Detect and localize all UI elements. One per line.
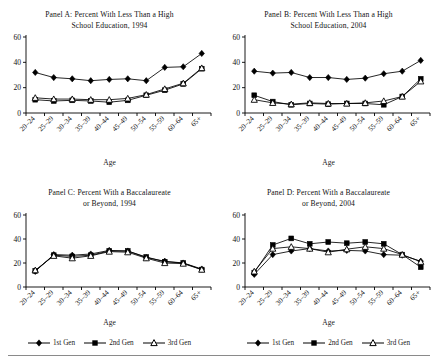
panel-a-title-line1: Panel A: Percent With Less Than a High (12, 10, 207, 21)
svg-text:0: 0 (236, 283, 240, 292)
panel-b-plot-wrap: 020406020–2425–2930–3435–3940–4445–4950–… (219, 31, 438, 156)
svg-text:35–39: 35–39 (293, 288, 312, 307)
panel-b-x-axis-label: Age (219, 158, 438, 167)
panel-c-x-axis-label: Age (0, 318, 219, 327)
panel-b-title-line2: School Education, 2004 (231, 21, 426, 32)
svg-text:55–59: 55–59 (367, 114, 386, 133)
legend-label-3rd-gen: 3rd Gen (386, 339, 410, 347)
legend-label-1st-gen: 1st Gen (52, 339, 75, 347)
panel-d: Panel D: Percent With a Baccalaureate or… (219, 178, 438, 333)
legend-item-3rd-gen: 3rd Gen (143, 338, 191, 348)
panel-grid: Panel A: Percent With Less Than a High S… (0, 0, 438, 333)
diamond-filled-marker-icon (28, 338, 50, 348)
svg-text:40–44: 40–44 (311, 114, 330, 133)
svg-text:60: 60 (13, 211, 21, 220)
svg-text:50–54: 50–54 (129, 288, 148, 307)
panel-a: Panel A: Percent With Less Than a High S… (0, 0, 219, 178)
svg-text:30–34: 30–34 (55, 288, 74, 307)
square-filled-marker-icon (84, 338, 106, 348)
svg-text:60: 60 (13, 33, 21, 42)
svg-text:20–24: 20–24 (237, 288, 256, 307)
panel-b: Panel B: Percent With Less Than a High S… (219, 0, 438, 178)
panel-a-title-line2: School Education, 1994 (12, 21, 207, 32)
legend-left: 1st Gen 2nd Gen 3rd Gen (0, 334, 219, 352)
panel-c-title: Panel C: Percent With a Baccalaureate or… (0, 178, 219, 209)
panel-b-title: Panel B: Percent With Less Than a High S… (219, 0, 438, 31)
legend-label-2nd-gen: 2nd Gen (108, 339, 134, 347)
svg-text:20: 20 (232, 83, 240, 92)
svg-text:0: 0 (236, 109, 240, 118)
svg-text:50–54: 50–54 (348, 114, 367, 133)
panel-a-chart: 020406020–2425–2930–3435–3940–4445–4950–… (0, 31, 219, 156)
svg-text:65+: 65+ (409, 289, 423, 303)
svg-text:20–24: 20–24 (18, 114, 37, 133)
legend-label-3rd-gen: 3rd Gen (167, 339, 191, 347)
panel-a-title: Panel A: Percent With Less Than a High S… (0, 0, 219, 31)
svg-text:60–64: 60–64 (385, 288, 404, 307)
svg-text:30–34: 30–34 (55, 114, 74, 133)
legend-item-3rd-gen: 3rd Gen (362, 338, 410, 348)
svg-text:40: 40 (13, 235, 21, 244)
svg-text:45–49: 45–49 (330, 288, 349, 307)
panel-d-title-line2: or Beyond, 2004 (231, 199, 426, 210)
diamond-filled-marker-icon (247, 338, 269, 348)
svg-text:40: 40 (13, 58, 21, 67)
svg-text:35–39: 35–39 (74, 288, 93, 307)
legend-item-1st-gen: 1st Gen (28, 338, 75, 348)
svg-text:60–64: 60–64 (166, 114, 185, 133)
svg-text:60–64: 60–64 (166, 288, 185, 307)
svg-text:45–49: 45–49 (111, 288, 130, 307)
svg-text:35–39: 35–39 (74, 114, 93, 133)
svg-text:65+: 65+ (409, 115, 423, 129)
svg-text:65+: 65+ (190, 115, 204, 129)
triangle-open-marker-icon (143, 338, 165, 348)
svg-text:40–44: 40–44 (92, 288, 111, 307)
legend-item-1st-gen: 1st Gen (247, 338, 294, 348)
panel-b-chart: 020406020–2425–2930–3435–3940–4445–4950–… (219, 31, 438, 156)
panel-c-title-line2: or Beyond, 1994 (12, 199, 207, 210)
panel-b-title-line1: Panel B: Percent With Less Than a High (231, 10, 426, 21)
legend-item-2nd-gen: 2nd Gen (303, 338, 353, 348)
panel-d-chart: 020406020–2425–2930–3435–3940–4445–4950–… (219, 209, 438, 329)
svg-text:20–24: 20–24 (237, 114, 256, 133)
svg-text:0: 0 (17, 109, 21, 118)
svg-text:25–29: 25–29 (37, 114, 56, 133)
bottom-divider (8, 355, 430, 356)
legend-label-2nd-gen: 2nd Gen (327, 339, 353, 347)
panel-c-chart: 020406020–2425–2930–3435–3940–4445–4950–… (0, 209, 219, 329)
svg-text:0: 0 (17, 283, 21, 292)
svg-text:30–34: 30–34 (274, 288, 293, 307)
figure-container: Panel A: Percent With Less Than a High S… (0, 0, 438, 362)
svg-text:20: 20 (13, 259, 21, 268)
svg-text:45–49: 45–49 (330, 114, 349, 133)
panel-d-plot-wrap: 020406020–2425–2930–3435–3940–4445–4950–… (219, 209, 438, 329)
svg-text:40–44: 40–44 (311, 288, 330, 307)
svg-text:55–59: 55–59 (148, 114, 167, 133)
panel-c: Panel C: Percent With a Baccalaureate or… (0, 178, 219, 333)
panel-d-title-line1: Panel D: Percent With a Baccalaureate (231, 188, 426, 199)
svg-text:40: 40 (232, 58, 240, 67)
svg-text:40: 40 (232, 235, 240, 244)
panel-a-x-axis-label: Age (0, 158, 219, 167)
svg-text:60: 60 (232, 211, 240, 220)
svg-text:45–49: 45–49 (111, 114, 130, 133)
svg-text:40–44: 40–44 (92, 114, 111, 133)
svg-text:50–54: 50–54 (129, 114, 148, 133)
panel-d-x-axis-label: Age (219, 318, 438, 327)
svg-text:35–39: 35–39 (293, 114, 312, 133)
svg-text:55–59: 55–59 (367, 288, 386, 307)
legend-label-1st-gen: 1st Gen (271, 339, 294, 347)
svg-text:20–24: 20–24 (18, 288, 37, 307)
svg-text:30–34: 30–34 (274, 114, 293, 133)
legend-item-2nd-gen: 2nd Gen (84, 338, 134, 348)
panel-d-title: Panel D: Percent With a Baccalaureate or… (219, 178, 438, 209)
svg-text:50–54: 50–54 (348, 288, 367, 307)
svg-text:60: 60 (232, 33, 240, 42)
svg-text:55–59: 55–59 (148, 288, 167, 307)
svg-text:20: 20 (13, 83, 21, 92)
svg-text:20: 20 (232, 259, 240, 268)
legend-right: 1st Gen 2nd Gen 3rd Gen (219, 334, 438, 352)
panel-c-plot-wrap: 020406020–2425–2930–3435–3940–4445–4950–… (0, 209, 219, 329)
svg-text:60–64: 60–64 (385, 114, 404, 133)
figure-legend: 1st Gen 2nd Gen 3rd Gen (0, 334, 438, 352)
